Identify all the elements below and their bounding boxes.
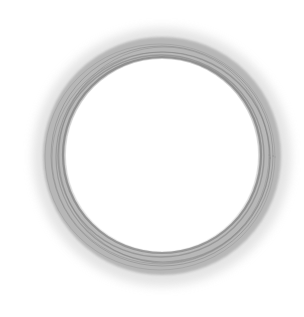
sketch-canvas (0, 0, 304, 317)
ring-center (66, 59, 258, 251)
ring-sketch (0, 0, 304, 317)
